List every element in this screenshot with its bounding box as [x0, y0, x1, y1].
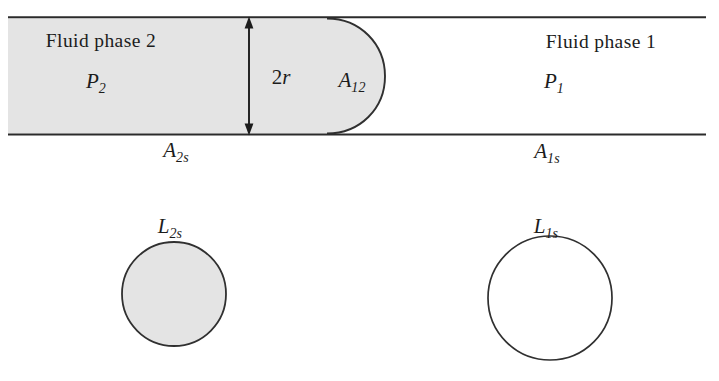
perimeter-1s-subscript: 1s	[545, 225, 558, 240]
label-area-1s: A1s	[534, 141, 560, 162]
interface-area-symbol: A	[338, 68, 351, 92]
pressure-1-subscript: 1	[557, 80, 564, 95]
label-tube-diameter: 2r	[272, 67, 291, 88]
area-1s-symbol: A	[534, 139, 547, 163]
perimeter-1s-symbol: L	[534, 214, 546, 238]
pressure-1-symbol: P	[544, 69, 557, 93]
label-perimeter-2s: L2s	[158, 216, 183, 237]
label-area-2s: A2s	[163, 140, 189, 161]
label-pressure-phase-1: P1	[544, 71, 564, 92]
perimeter-2s-symbol: L	[158, 214, 170, 238]
area-2s-subscript: 2s	[176, 149, 189, 164]
perimeter-2s-subscript: 2s	[169, 225, 182, 240]
cross-section-circle-phase-2	[122, 242, 226, 346]
label-pressure-phase-2: P2	[86, 71, 106, 92]
diameter-coefficient: 2	[272, 65, 283, 89]
cross-section-circle-phase-1	[488, 236, 612, 360]
area-2s-symbol: A	[163, 138, 176, 162]
pressure-2-symbol: P	[86, 69, 99, 93]
interface-area-subscript: 12	[351, 79, 365, 94]
area-1s-subscript: 1s	[547, 150, 560, 165]
label-interfacial-area: A12	[338, 70, 365, 91]
label-fluid-phase-2: Fluid phase 2	[46, 31, 156, 51]
label-perimeter-1s: L1s	[534, 216, 559, 237]
figure-canvas: Fluid phase 2 P2 2r A12 Fluid phase 1 P1…	[0, 0, 719, 381]
radius-symbol: r	[282, 65, 290, 89]
capillary-diagram	[0, 0, 719, 381]
pressure-2-subscript: 2	[99, 80, 106, 95]
label-fluid-phase-1: Fluid phase 1	[546, 32, 656, 52]
